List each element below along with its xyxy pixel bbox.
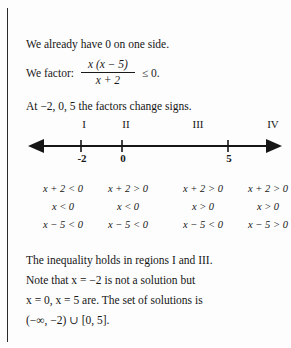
- fraction-bar: [81, 72, 135, 73]
- factor-label: We factor:: [26, 67, 74, 79]
- sign-cell: x + 2 > 0: [166, 180, 240, 198]
- page-left-rule: [7, 8, 8, 342]
- sign-column-iii: x + 2 > 0 x > 0 x − 5 < 0: [166, 180, 240, 234]
- number-line-diagram: I II III IV -2 0 5: [26, 118, 284, 172]
- sign-cell: x − 5 > 0: [231, 216, 291, 234]
- number-line-axis: [26, 134, 284, 158]
- conclusion-paragraph: The inequality holds in regions I and II…: [26, 250, 280, 330]
- sign-cell: x > 0: [166, 198, 240, 216]
- conclusion-line: x = 0, x = 5 are. The set of solutions i…: [26, 290, 280, 310]
- tick-label-zero: 0: [120, 152, 126, 165]
- sign-cell: x < 0: [26, 198, 100, 216]
- solution-set: (−∞, −2) ∪ [0, 5].: [26, 310, 280, 330]
- rational-expression: x (x − 5) x + 2: [81, 58, 135, 87]
- conclusion-line: Note that x = −2 is not a solution but: [26, 270, 280, 290]
- sign-cell: x − 5 < 0: [166, 216, 240, 234]
- document-page: We already have 0 on one side. We factor…: [0, 0, 291, 348]
- fraction-numerator: x (x − 5): [86, 58, 130, 71]
- sign-cell: x < 0: [91, 198, 165, 216]
- sign-cell: x > 0: [231, 198, 291, 216]
- sign-cell: x + 2 > 0: [91, 180, 165, 198]
- inequality-relation: ≤ 0.: [142, 67, 160, 79]
- factor-statement: We factor: x (x − 5) x + 2 ≤ 0.: [26, 58, 160, 87]
- sign-cell: x + 2 < 0: [26, 180, 100, 198]
- tick-label-neg2: -2: [77, 152, 86, 165]
- region-label-iii: III: [193, 118, 204, 131]
- region-label-iv: IV: [267, 118, 279, 131]
- fraction-denominator: x + 2: [94, 74, 122, 87]
- sign-cell: x + 2 > 0: [231, 180, 291, 198]
- sign-analysis-table: x + 2 < 0 x < 0 x − 5 < 0 x + 2 > 0 x < …: [26, 180, 284, 236]
- sign-column-ii: x + 2 > 0 x < 0 x − 5 < 0: [91, 180, 165, 234]
- sign-column-i: x + 2 < 0 x < 0 x − 5 < 0: [26, 180, 100, 234]
- right-arrowhead: [266, 139, 282, 153]
- sign-cell: x − 5 < 0: [91, 216, 165, 234]
- region-label-ii: II: [122, 118, 129, 131]
- sign-cell: x − 5 < 0: [26, 216, 100, 234]
- region-label-i: I: [82, 118, 86, 131]
- sign-column-iv: x + 2 > 0 x > 0 x − 5 > 0: [231, 180, 291, 234]
- sign-change-text: At −2, 0, 5 the factors change signs.: [26, 98, 192, 114]
- intro-text: We already have 0 on one side.: [26, 36, 169, 52]
- tick-label-five: 5: [226, 152, 232, 165]
- conclusion-line: The inequality holds in regions I and II…: [26, 250, 280, 270]
- left-arrowhead: [28, 139, 44, 153]
